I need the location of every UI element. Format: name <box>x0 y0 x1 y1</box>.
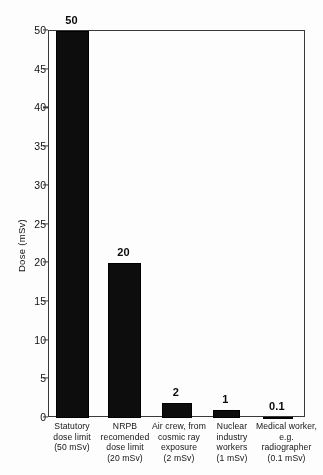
x-category-label: Air crew, fromcosmic rayexposure(2 mSv) <box>144 421 214 463</box>
x-category-line: Air crew, from <box>144 421 214 432</box>
x-category-line: exposure <box>144 442 214 453</box>
y-tick-label: 35 <box>0 140 46 152</box>
x-category-line: radiographer <box>250 442 323 453</box>
y-tick-label: 25 <box>0 218 46 230</box>
bar-chart: Dose (mSv) 05101520253035404550 5020210.… <box>0 0 323 475</box>
x-category-line: e.g. <box>250 432 323 443</box>
bar <box>56 31 89 418</box>
bar <box>213 410 240 418</box>
x-category-label: Medical worker,e.g.radiographer(0.1 mSv) <box>250 421 323 463</box>
x-category-line: Medical worker, <box>250 421 323 432</box>
y-tick-label: 20 <box>0 256 46 268</box>
y-tick-label: 10 <box>0 334 46 346</box>
bar-value-label: 0.1 <box>269 400 285 412</box>
x-category-line: (2 mSv) <box>144 453 214 464</box>
y-tick-label: 50 <box>0 24 46 36</box>
bar-value-label: 20 <box>117 246 130 258</box>
bar-value-label: 2 <box>173 386 179 398</box>
y-axis-title: Dose (mSv) <box>16 201 27 291</box>
y-tick-label: 40 <box>0 101 46 113</box>
bar <box>108 263 141 418</box>
y-tick-label: 30 <box>0 179 46 191</box>
bar <box>162 403 192 418</box>
bar <box>263 417 293 419</box>
y-tick-label: 15 <box>0 295 46 307</box>
bar-value-label: 1 <box>222 393 228 405</box>
y-tick-label: 5 <box>0 372 46 384</box>
x-category-line: cosmic ray <box>144 432 214 443</box>
y-tick-label: 45 <box>0 63 46 75</box>
bar-value-label: 50 <box>65 14 78 26</box>
x-category-line: (0.1 mSv) <box>250 453 323 464</box>
plot-area <box>48 30 305 417</box>
